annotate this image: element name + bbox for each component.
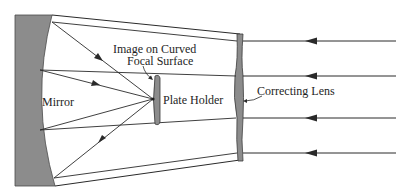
arrow-icon xyxy=(305,150,317,157)
focal-point xyxy=(151,97,154,100)
mirror-label: Mirror xyxy=(42,95,74,109)
plate-holder-label: Plate Holder xyxy=(163,93,223,107)
schmidt-telescope-diagram: Mirror Image on Curved Focal Surface Pla… xyxy=(0,0,411,194)
tube-ray-3 xyxy=(40,118,236,130)
tube-bottom-edge xyxy=(55,160,240,186)
arrow-icon xyxy=(91,80,100,86)
arrow-icon xyxy=(305,73,317,80)
arrow-icon xyxy=(305,38,317,45)
correcting-lens-label: Correcting Lens xyxy=(257,84,335,98)
arrow-icon xyxy=(98,135,106,143)
tube-ray-4 xyxy=(54,153,237,178)
image-label-line2: Focal Surface xyxy=(127,54,193,68)
arrow-icon xyxy=(305,115,317,122)
plate-holder xyxy=(154,75,161,124)
correcting-lens xyxy=(234,34,243,161)
tube-ray-2 xyxy=(40,70,236,76)
arrow-icon xyxy=(94,53,103,61)
